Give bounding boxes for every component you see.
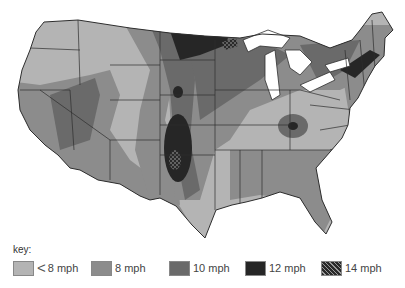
swatch-8: [91, 261, 112, 276]
swatch-12: [245, 261, 266, 276]
legend: < 8 mph 8 mph 10 mph 12 mph 14 mph: [13, 260, 403, 276]
us-wind-map: [0, 0, 405, 250]
legend-item-lt8: < 8 mph: [13, 260, 78, 276]
legend-item-14: 14 mph: [321, 260, 382, 276]
less-than-symbol: <: [37, 261, 46, 275]
legend-label: 14 mph: [345, 262, 382, 274]
legend-item-10: 10 mph: [169, 260, 230, 276]
legend-label: 12 mph: [269, 262, 306, 274]
legend-label: 10 mph: [193, 262, 230, 274]
legend-item-8: 8 mph: [91, 260, 146, 276]
swatch-lt8: [13, 261, 34, 276]
legend-label: 8 mph: [115, 262, 146, 274]
legend-title: key:: [13, 244, 31, 255]
legend-item-12: 12 mph: [245, 260, 306, 276]
legend-label: 8 mph: [48, 262, 79, 274]
swatch-10: [169, 261, 190, 276]
swatch-14: [321, 261, 342, 276]
